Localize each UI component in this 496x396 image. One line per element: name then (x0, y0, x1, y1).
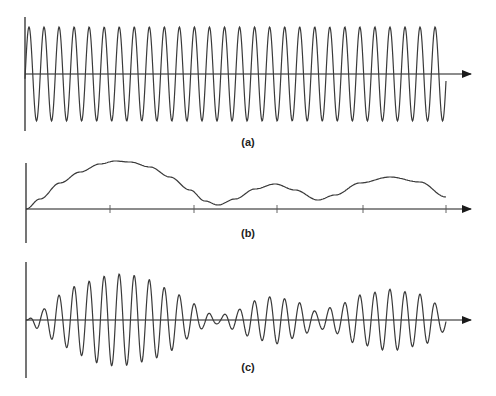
panel-a-label: (a) (241, 136, 255, 148)
panel-b-label: (b) (241, 227, 255, 239)
panel-c: (c) (26, 262, 471, 378)
panel-b: (b) (26, 161, 471, 243)
panel-b-envelope-curve (26, 161, 446, 209)
panel-c-label: (c) (241, 361, 255, 373)
modulation-figure: (a) (b) (c) (0, 0, 496, 396)
panel-a: (a) (25, 17, 471, 148)
